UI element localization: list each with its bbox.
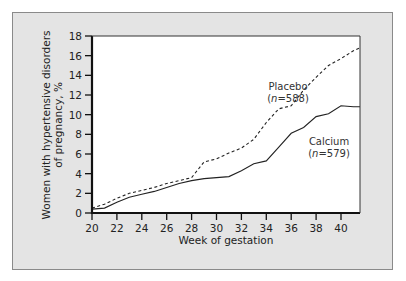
y-tick-label: 10 bbox=[69, 109, 82, 121]
y-tick-label: 16 bbox=[69, 50, 83, 62]
y-axis-ticks: 024681012141618 bbox=[69, 30, 92, 219]
x-tick-label: 38 bbox=[309, 222, 322, 234]
y-tick-label: 18 bbox=[69, 30, 82, 42]
y-tick-label: 14 bbox=[69, 69, 83, 81]
y-tick-label: 12 bbox=[69, 89, 82, 101]
line-chart: 024681012141618 2022242628303234363840 W… bbox=[0, 0, 406, 281]
x-tick-label: 20 bbox=[85, 222, 98, 234]
svg-text:Placebo: Placebo bbox=[268, 81, 307, 92]
y-axis-title: Women with hypertensive disorders of pre… bbox=[40, 31, 64, 220]
placebo-annotation: Placebo (n=588) bbox=[267, 81, 309, 104]
x-tick-label: 24 bbox=[135, 222, 149, 234]
svg-text:(n=588): (n=588) bbox=[267, 93, 309, 104]
x-axis-ticks: 2022242628303234363840 bbox=[85, 213, 347, 234]
svg-text:Calcium: Calcium bbox=[309, 136, 349, 147]
x-tick-label: 28 bbox=[185, 222, 198, 234]
x-tick-label: 22 bbox=[110, 222, 123, 234]
x-tick-label: 36 bbox=[285, 222, 299, 234]
x-axis-title: Week of gestation bbox=[179, 234, 274, 246]
y-tick-label: 4 bbox=[75, 168, 82, 180]
calcium-annotation: Calcium (n=579) bbox=[308, 136, 350, 159]
y-tick-label: 6 bbox=[75, 148, 82, 160]
x-tick-label: 32 bbox=[235, 222, 248, 234]
x-tick-label: 30 bbox=[210, 222, 223, 234]
y-tick-label: 0 bbox=[75, 207, 82, 219]
svg-text:(n=579): (n=579) bbox=[308, 148, 350, 159]
x-tick-label: 26 bbox=[160, 222, 174, 234]
y-tick-label: 8 bbox=[75, 128, 82, 140]
y-tick-label: 2 bbox=[75, 187, 82, 199]
x-tick-label: 34 bbox=[260, 222, 274, 234]
svg-text:of pregnancy, %: of pregnancy, % bbox=[52, 82, 64, 168]
plot-area bbox=[92, 36, 360, 213]
x-tick-label: 40 bbox=[334, 222, 347, 234]
svg-text:Women with hypertensive disord: Women with hypertensive disorders bbox=[40, 31, 52, 220]
